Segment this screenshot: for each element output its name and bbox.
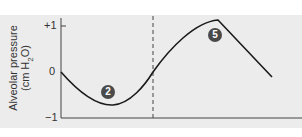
y-label-line2: (cm H2O) <box>19 25 36 111</box>
pressure-curve <box>61 20 272 105</box>
ytick-minus1: −1 <box>45 111 58 123</box>
ytick-plus1: +1 <box>44 19 57 31</box>
marker-5: 5 <box>208 28 222 42</box>
y-axis-label: Alveolar pressure (cm H2O) <box>4 18 40 118</box>
marker-2: 2 <box>101 85 115 99</box>
ytick-zero: 0 <box>49 65 55 77</box>
y-label-line1: Alveolar pressure <box>7 25 19 111</box>
